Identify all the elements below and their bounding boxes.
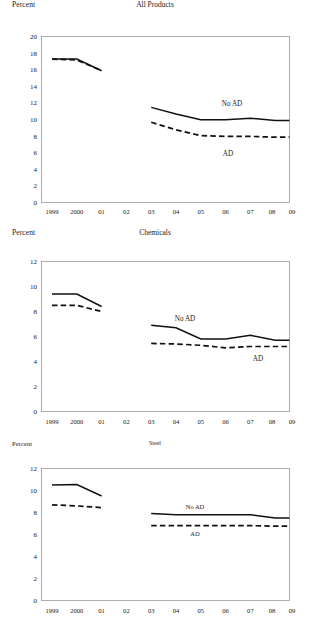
xtick: 03	[148, 607, 155, 614]
plot-area-all-products: 20 18 16 14 12 10 8 6 4 2 0 No AD AD	[0, 16, 310, 228]
ytick: 10	[30, 487, 38, 495]
ytick: 6	[34, 531, 38, 539]
xtick: 03	[148, 418, 155, 425]
ytick: 0	[34, 408, 38, 416]
ytick: 4	[34, 358, 38, 366]
xtick: 2000	[70, 607, 84, 614]
ytick: 2	[34, 383, 38, 391]
ytick: 10	[30, 116, 38, 124]
xtick: 08	[269, 607, 276, 614]
annotation-no-ad: No AD	[222, 100, 243, 108]
xtick: 09	[289, 607, 296, 614]
xtick: 09	[289, 418, 296, 425]
xtick: 02	[123, 607, 130, 614]
xtick: 07	[247, 208, 254, 215]
series-ad-right	[151, 122, 289, 137]
xtick: 05	[198, 607, 205, 614]
series-no-ad-right	[151, 514, 289, 518]
ytick: 0	[34, 597, 38, 605]
plot-area-steel: 12 10 8 6 4 2 0 No AD AD 1999 2000 01 02…	[0, 454, 310, 627]
ytick: 6	[34, 333, 38, 341]
ytick: 2	[34, 575, 38, 583]
ytick: 8	[34, 133, 38, 141]
xtick: 04	[173, 607, 180, 614]
plot-area-chemicals: 12 10 8 6 4 2 0 No AD AD 1999 2000 01 02…	[0, 244, 310, 440]
xtick: 06	[222, 208, 229, 215]
xtick: 2000	[70, 418, 84, 425]
xtick: 04	[173, 418, 180, 425]
chart-panel-steel: Percent Steel 12 10 8 6 4 2 0 No AD AD 1…	[0, 440, 310, 627]
ytick: 12	[30, 465, 38, 473]
ytick: 16	[30, 66, 38, 74]
chart-header-steel: Percent Steel	[0, 440, 310, 454]
annotation-ad: AD	[223, 150, 233, 158]
chart-title-all-products: All Products	[0, 0, 310, 9]
series-ad-left	[52, 305, 102, 311]
series-no-ad-left	[52, 485, 102, 497]
ytick: 14	[30, 83, 38, 91]
series-no-ad-left	[52, 59, 102, 71]
chart-title-chemicals: Chemicals	[0, 228, 310, 237]
ytick: 20	[30, 33, 38, 41]
xtick: 08	[269, 208, 276, 215]
ytick: 4	[34, 166, 38, 174]
ytick: 8	[34, 509, 38, 517]
chart-svg-chemicals: 12 10 8 6 4 2 0 No AD AD 1999 2000 01 02…	[0, 244, 310, 440]
ytick: 4	[34, 553, 38, 561]
xtick: 1999	[45, 208, 59, 215]
series-no-ad-left	[52, 294, 102, 307]
xtick: 01	[98, 208, 105, 215]
chart-panel-all-products: Percent All Products 20 18 16 14 12 10 8…	[0, 0, 310, 228]
chart-panel-chemicals: Percent Chemicals 12 10 8 6 4 2 0 No AD …	[0, 228, 310, 440]
xtick: 06	[222, 418, 229, 425]
plot-frame	[42, 469, 290, 601]
xtick: 1999	[45, 418, 59, 425]
series-ad-right	[151, 343, 289, 347]
annotation-no-ad: No AD	[186, 503, 205, 510]
chart-svg-all-products: 20 18 16 14 12 10 8 6 4 2 0 No AD AD	[0, 16, 310, 228]
ytick: 18	[30, 50, 38, 58]
xtick: 07	[247, 418, 254, 425]
xtick: 04	[173, 208, 180, 215]
xtick: 05	[198, 208, 205, 215]
chart-svg-steel: 12 10 8 6 4 2 0 No AD AD 1999 2000 01 02…	[0, 454, 310, 627]
ytick: 12	[30, 258, 38, 266]
ytick: 8	[34, 308, 38, 316]
series-ad-left	[52, 59, 102, 71]
annotation-ad: AD	[253, 355, 263, 363]
xtick: 09	[289, 208, 296, 215]
annotation-ad: AD	[190, 530, 200, 537]
chart-header-chemicals: Percent Chemicals	[0, 228, 310, 244]
xtick: 06	[222, 607, 229, 614]
series-ad-left	[52, 505, 102, 508]
xtick: 07	[247, 607, 254, 614]
xtick: 02	[123, 208, 130, 215]
series-ad-right	[151, 526, 289, 527]
chart-title-steel: Steel	[0, 440, 310, 446]
xtick: 08	[269, 418, 276, 425]
xtick: 02	[123, 418, 130, 425]
xtick: 01	[98, 418, 105, 425]
ytick: 6	[34, 149, 38, 157]
ytick: 10	[30, 283, 38, 291]
chart-header-all-products: Percent All Products	[0, 0, 310, 16]
series-no-ad-right	[151, 107, 289, 120]
xtick: 03	[148, 208, 155, 215]
figure-root: Percent All Products 20 18 16 14 12 10 8…	[0, 0, 310, 627]
ytick: 0	[34, 199, 38, 207]
annotation-no-ad: No AD	[175, 315, 196, 323]
xtick: 01	[98, 607, 105, 614]
series-no-ad-right	[151, 325, 289, 340]
xtick: 2000	[70, 208, 84, 215]
plot-frame	[42, 262, 290, 412]
ytick: 12	[30, 99, 38, 107]
xtick: 05	[198, 418, 205, 425]
ytick: 2	[34, 182, 38, 190]
xtick: 1999	[45, 607, 59, 614]
